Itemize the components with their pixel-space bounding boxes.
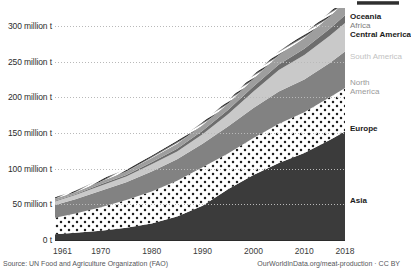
x-tick-label-1970: 1970: [91, 246, 110, 256]
legend-label-africa[interactable]: Africa: [350, 21, 370, 30]
gridline-50: [55, 204, 345, 205]
gridline-250: [55, 62, 345, 63]
gridline-0: [55, 240, 345, 241]
x-tick-label-1980: 1980: [142, 246, 161, 256]
y-tick-label-200: 200 million t: [8, 92, 52, 102]
top-marker-bar: [357, 1, 399, 5]
legend-label-north-america[interactable]: NorthAmerica: [350, 78, 379, 96]
x-tick-label-2000: 2000: [244, 246, 263, 256]
gridline-150: [55, 133, 345, 134]
y-tick-label-0: 0 t: [43, 235, 52, 245]
x-tick-label-1961: 1961: [53, 246, 72, 256]
y-tick-label-150: 150 million t: [8, 128, 52, 138]
y-tick-label-250: 250 million t: [8, 57, 52, 67]
gridline-100: [55, 169, 345, 170]
x-tick-label-1990: 1990: [193, 246, 212, 256]
y-tick-label-50: 50 million t: [13, 199, 52, 209]
legend-label-line-1: North: [350, 78, 379, 87]
legend-label-europe[interactable]: Europe: [350, 124, 378, 133]
legend-label-central-america[interactable]: Central America: [350, 30, 411, 39]
source-note: Source: UN Food and Agriculture Organiza…: [3, 260, 168, 267]
attribution-note[interactable]: OurWorldInData.org/meat-production · CC …: [257, 260, 400, 267]
y-tick-label-100: 100 million t: [8, 164, 52, 174]
y-tick-label-300: 300 million t: [8, 21, 52, 31]
gridline-300: [55, 26, 345, 27]
legend-label-asia[interactable]: Asia: [350, 196, 367, 205]
legend-label-south-america[interactable]: South America: [350, 52, 402, 61]
legend-label-line-2: America: [350, 87, 379, 96]
gridline-200: [55, 97, 345, 98]
x-tick-label-2018: 2018: [336, 246, 355, 256]
x-tick-label-2010: 2010: [295, 246, 314, 256]
legend-label-oceania[interactable]: Oceania: [350, 12, 381, 21]
